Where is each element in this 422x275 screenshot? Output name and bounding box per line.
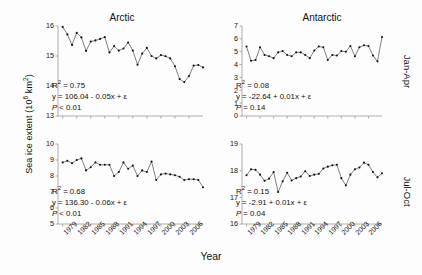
svg-text:10: 10 [46,139,54,148]
y-axis-label: Sea ice extent (106 km2) [22,39,34,209]
svg-text:19: 19 [230,139,238,148]
row-label-jan-apr: Jan-Apr [402,49,413,95]
row-label-jul-oct: Jul-Oct [402,169,413,215]
sea-ice-extent-figure: Sea ice extent (106 km2) Arctic Antarcti… [0,0,422,275]
regression-equation: y = -2.91 + 0.01x + ε [236,197,307,208]
stats-annotation-arctic-jul-oct: R2 = 0.68 y = 136.30 - 0.06x + ε P < 0.0… [52,184,127,219]
svg-text:15: 15 [46,51,54,60]
stats-annotation-antarctic-jan-apr: R2 = 0.08 y = -22.64 + 0.01x + ε P = 0.1… [236,78,311,113]
svg-text:18: 18 [230,166,238,175]
svg-text:16: 16 [230,219,238,228]
svg-text:7: 7 [234,21,238,30]
svg-text:5: 5 [50,219,54,228]
x-axis-label: Year [0,250,422,262]
regression-equation: y = 106.04 - 0.05x + ε [52,91,127,102]
regression-equation: y = 136.30 - 0.06x + ε [52,197,127,208]
regression-equation: y = -22.64 + 0.01x + ε [236,91,311,102]
svg-text:6: 6 [234,34,238,43]
svg-text:5: 5 [234,47,238,56]
svg-text:9: 9 [50,155,54,164]
stats-annotation-antarctic-jul-oct: R2 = 0.15 y = -2.91 + 0.01x + ε P = 0.04 [236,184,307,219]
svg-text:16: 16 [46,21,54,30]
svg-text:4: 4 [234,60,238,69]
stats-annotation-arctic-jan-apr: R2 = 0.75 y = 106.04 - 0.05x + ε P < 0.0… [52,78,127,113]
svg-text:8: 8 [50,171,54,180]
